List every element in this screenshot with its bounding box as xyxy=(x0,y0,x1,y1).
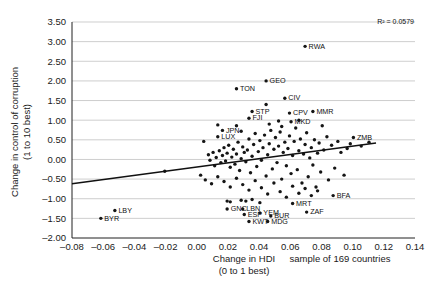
data-point xyxy=(272,148,275,151)
data-point xyxy=(218,149,221,152)
data-point xyxy=(258,139,261,142)
point-label-kwt: KWT xyxy=(252,217,269,226)
point-label-civ: CIV xyxy=(288,93,300,102)
data-point xyxy=(314,185,317,188)
data-point xyxy=(300,181,303,184)
data-point xyxy=(297,149,300,152)
data-point xyxy=(291,184,294,187)
data-point xyxy=(333,166,336,169)
data-point xyxy=(297,192,300,195)
data-point xyxy=(224,159,227,162)
point-label-lby: LBY xyxy=(118,206,132,215)
sample-size-note: sample of 169 countries xyxy=(290,253,391,264)
y-tick-label: –1.50 xyxy=(42,213,66,224)
data-point xyxy=(283,140,286,143)
x-axis-title: Change in HDI xyxy=(213,253,275,264)
data-point xyxy=(278,190,281,193)
data-point xyxy=(272,181,275,184)
data-point xyxy=(266,192,269,195)
data-point xyxy=(288,134,291,137)
data-point xyxy=(303,187,306,190)
data-point xyxy=(285,164,288,167)
data-point xyxy=(339,151,342,154)
data-point-labeled xyxy=(247,117,250,120)
data-point-labeled xyxy=(352,136,355,139)
point-label-gnc: GNC xyxy=(231,204,247,213)
x-tick-label: 0.00 xyxy=(187,241,206,252)
data-point xyxy=(230,155,233,158)
data-point xyxy=(307,175,310,178)
y-tick-label: 0.50 xyxy=(48,134,67,145)
point-label-mdg: MDG xyxy=(271,217,288,226)
point-labels: RWATONGEOCIVSTPFJICPVMMRMKDJPNLUXZMBLBYB… xyxy=(104,42,372,226)
data-point xyxy=(241,145,244,148)
data-point-labeled xyxy=(291,202,294,205)
data-point xyxy=(250,198,253,201)
y-axis-tick-labels: 3.503.002.502.001.501.000.500.00–0.50–1.… xyxy=(42,16,66,243)
data-point xyxy=(257,150,260,153)
point-label-ton: TON xyxy=(240,84,255,93)
data-point xyxy=(227,144,230,147)
data-point xyxy=(310,146,313,149)
scatter-chart: 3.503.002.502.001.501.000.500.00–0.50–1.… xyxy=(0,0,430,296)
point-label-rwa: RWA xyxy=(309,42,326,51)
data-point xyxy=(207,153,210,156)
data-point xyxy=(252,143,255,146)
data-point xyxy=(316,151,319,154)
data-point xyxy=(321,124,324,127)
data-point xyxy=(255,165,258,168)
data-point xyxy=(303,143,306,146)
data-point xyxy=(278,130,281,133)
data-point xyxy=(225,199,228,202)
x-tick-label: 0.06 xyxy=(281,241,300,252)
data-point xyxy=(280,125,283,128)
data-point xyxy=(250,155,253,158)
data-point-labeled xyxy=(243,213,246,216)
point-label-mkd: MKD xyxy=(295,117,311,126)
data-point xyxy=(247,188,250,191)
data-point xyxy=(263,133,266,136)
data-point xyxy=(268,122,271,125)
x-axis-tick-labels: –0.08–0.06–0.04–0.020.000.020.040.060.08… xyxy=(60,241,424,252)
x-axis-subtitle: (0 to 1 best) xyxy=(219,265,270,276)
data-point-labeled xyxy=(303,45,306,48)
data-point xyxy=(229,200,232,203)
data-point xyxy=(286,147,289,150)
x-tick-label: 0.08 xyxy=(312,241,331,252)
r-squared-annotation: R² = 0.0579 xyxy=(377,18,414,25)
data-point xyxy=(239,199,242,202)
data-point xyxy=(317,141,320,144)
data-point xyxy=(282,151,285,154)
data-point xyxy=(310,194,313,197)
point-label-zaf: ZAF xyxy=(310,207,324,216)
data-point xyxy=(199,173,202,176)
data-point xyxy=(264,174,267,177)
data-point xyxy=(342,173,345,176)
point-label-lux: LUX xyxy=(221,132,235,141)
data-point xyxy=(305,131,308,134)
data-point xyxy=(327,178,330,181)
y-tick-label: –1.00 xyxy=(42,193,66,204)
data-point xyxy=(229,185,232,188)
data-point-labeled xyxy=(216,135,219,138)
data-point xyxy=(253,132,256,135)
data-point-labeled xyxy=(99,217,102,220)
data-point xyxy=(277,119,280,122)
x-tick-label: 0.12 xyxy=(375,241,394,252)
data-point xyxy=(349,142,352,145)
data-point xyxy=(233,162,236,165)
data-point xyxy=(238,169,241,172)
x-tick-label: –0.04 xyxy=(122,241,146,252)
point-label-geo: GEO xyxy=(270,76,286,85)
data-point xyxy=(308,156,311,159)
data-point xyxy=(253,179,256,182)
data-point-labeled xyxy=(331,194,334,197)
data-point xyxy=(210,182,213,185)
data-point xyxy=(208,159,211,162)
data-point xyxy=(299,137,302,140)
data-point xyxy=(215,156,218,159)
data-point xyxy=(296,168,299,171)
x-tick-label: –0.08 xyxy=(60,241,84,252)
y-tick-label: 1.50 xyxy=(48,95,67,106)
data-point-labeled xyxy=(247,220,250,223)
